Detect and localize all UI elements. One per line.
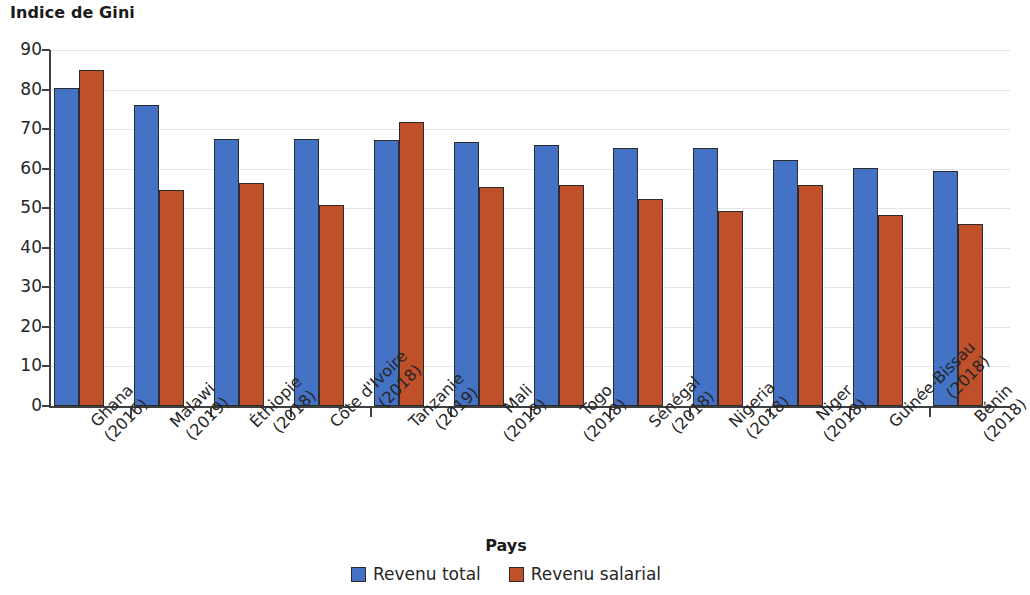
bar-revenu-salarial[interactable] — [79, 70, 104, 406]
legend-label: Revenu salarial — [531, 564, 661, 584]
bar-revenu-salarial[interactable] — [479, 187, 504, 406]
y-axis-tick — [42, 89, 50, 91]
legend-swatch-icon — [351, 567, 366, 582]
bar-revenu-total[interactable] — [534, 145, 559, 406]
bar-group — [531, 50, 611, 406]
y-axis-tick-label: 20 — [0, 318, 42, 335]
bar-revenu-salarial[interactable] — [718, 211, 743, 406]
bar-revenu-salarial[interactable] — [159, 190, 184, 406]
y-axis-tick-label: 40 — [0, 239, 42, 256]
bar-group — [51, 50, 131, 406]
y-axis-tick — [42, 247, 50, 249]
bar-group — [451, 50, 531, 406]
bar-revenu-salarial[interactable] — [239, 183, 264, 406]
bar-group — [371, 50, 451, 406]
bar-revenu-total[interactable] — [773, 160, 798, 406]
y-axis-tick-labels: 0102030405060708090 — [0, 50, 42, 408]
bar-group — [291, 50, 371, 406]
bar-revenu-salarial[interactable] — [798, 185, 823, 406]
x-axis-title: Pays — [0, 536, 1012, 555]
bar-revenu-total[interactable] — [853, 168, 878, 406]
bar-group — [850, 50, 930, 406]
y-axis-tick-label: 0 — [0, 397, 42, 414]
y-axis-tick-label: 70 — [0, 120, 42, 137]
bar-revenu-salarial[interactable] — [559, 185, 584, 407]
legend-item[interactable]: Revenu total — [351, 564, 481, 584]
bar-group — [610, 50, 690, 406]
y-axis-tick — [42, 207, 50, 209]
bar-group — [690, 50, 770, 406]
bar-group — [770, 50, 850, 406]
bar-revenu-total[interactable] — [454, 142, 479, 406]
legend-label: Revenu total — [373, 564, 481, 584]
bar-revenu-total[interactable] — [693, 148, 718, 406]
y-axis-tick — [42, 168, 50, 170]
y-axis-tick-label: 80 — [0, 81, 42, 98]
bar-revenu-total[interactable] — [613, 148, 638, 406]
chart-title: Indice de Gini — [10, 3, 135, 22]
bar-revenu-salarial[interactable] — [319, 205, 344, 406]
bar-revenu-total[interactable] — [214, 139, 239, 406]
bar-group — [211, 50, 291, 406]
y-axis-tick-label: 30 — [0, 278, 42, 295]
legend-item[interactable]: Revenu salarial — [509, 564, 661, 584]
legend-swatch-icon — [509, 567, 524, 582]
y-axis-tick — [42, 326, 50, 328]
bar-revenu-total[interactable] — [294, 139, 319, 406]
bar-revenu-salarial[interactable] — [878, 215, 903, 406]
bar-group — [131, 50, 211, 406]
x-axis-category-labels: Ghana(2016)Malawi(2019)Éthiopie(2018)Côt… — [49, 418, 1010, 536]
y-axis-tick — [42, 286, 50, 288]
y-axis-tick-label: 90 — [0, 41, 42, 58]
y-axis-tick-label: 10 — [0, 357, 42, 374]
plot-area — [49, 50, 1010, 408]
bar-revenu-total[interactable] — [134, 105, 159, 406]
y-axis-tick — [42, 365, 50, 367]
y-axis-tick-label: 50 — [0, 199, 42, 216]
y-axis-tick — [42, 128, 50, 130]
bar-revenu-total[interactable] — [54, 88, 79, 406]
bar-revenu-salarial[interactable] — [638, 199, 663, 406]
chart-legend: Revenu totalRevenu salarial — [0, 564, 1012, 584]
y-axis-tick — [42, 49, 50, 51]
y-axis-tick-label: 60 — [0, 160, 42, 177]
y-axis-tick — [42, 405, 50, 407]
